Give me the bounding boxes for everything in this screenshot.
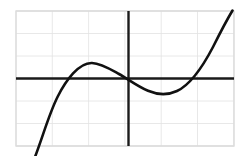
graph-figure bbox=[0, 0, 246, 156]
cubic-function-plot bbox=[0, 0, 246, 156]
